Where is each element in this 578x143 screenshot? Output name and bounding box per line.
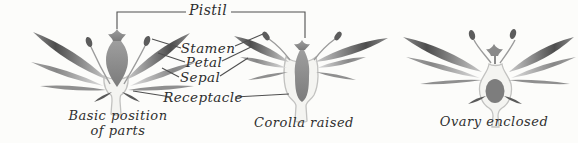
anther-left	[84, 36, 93, 48]
stigma	[294, 40, 310, 50]
caption-ovary-enclosed: Ovary enclosed	[440, 114, 548, 129]
stamen-label: Stamen	[181, 41, 236, 55]
sepal-label: Sepal	[180, 70, 220, 84]
pistil-label: Pistil	[189, 3, 227, 17]
petal-label: Petal	[186, 55, 222, 69]
pistil-body	[295, 50, 310, 102]
sepal-droop-left	[420, 80, 482, 84]
flower-parts-diagram: Pistil Stamen Petal Sepal Receptacle Bas…	[0, 0, 578, 143]
anther-right	[509, 28, 517, 40]
sepal-droop-right	[316, 72, 356, 80]
flower-ovary-enclosed-illustration	[403, 28, 576, 127]
caption-basic-position-line2: of parts	[68, 123, 167, 138]
sepal-droop-left	[248, 72, 288, 80]
stamen-filament-right	[500, 40, 515, 63]
bract-right	[122, 92, 140, 102]
stigma	[108, 29, 126, 41]
stigma	[486, 44, 503, 56]
bract-left	[94, 92, 112, 102]
enclosed-ovary	[486, 79, 505, 103]
sepal-droop-right	[508, 80, 570, 84]
caption-corolla-raised: Corolla raised	[254, 115, 354, 130]
sepal-droop-left	[40, 86, 106, 91]
anther-left	[468, 29, 476, 41]
flower-corolla-raised-illustration	[234, 30, 388, 122]
sepal-leader-right	[220, 58, 248, 76]
receptacle-label: Receptacle	[163, 90, 243, 104]
caption-basic-position-line1: Basic position	[68, 108, 167, 123]
anther-right	[142, 35, 151, 47]
caption-basic-position: Basic position of parts	[68, 108, 167, 138]
sepal-left	[31, 62, 104, 86]
pistil-bracket-left	[117, 12, 186, 29]
